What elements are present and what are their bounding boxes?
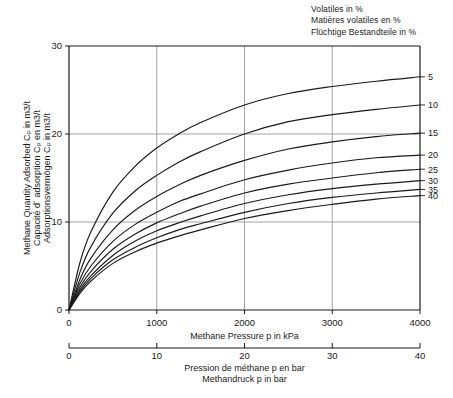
y-tick-label: 30 — [51, 40, 62, 51]
x-tick-label: 0 — [66, 317, 71, 328]
y-axis-ticks: 0102030 — [51, 40, 69, 315]
x-axis-ticks: 01000200030004000 — [66, 310, 430, 328]
curve-label-10: 10 — [428, 100, 438, 110]
secondary-x-axis: 010203040 — [66, 343, 425, 361]
legend-title-en: Volatiles in % — [311, 4, 416, 15]
y-tick-label: 10 — [51, 216, 62, 227]
curve-label-25: 25 — [428, 165, 438, 175]
x-tick-label: 1000 — [146, 317, 167, 328]
x-axis-primary-title: Methane Pressure p in kPa — [190, 331, 299, 341]
y-axis-title-de: Adsorptionsvermögen Cₚ in m3/t — [42, 112, 52, 243]
y-tick-label: 20 — [51, 128, 62, 139]
x-axis-secondary-title-fr: Pression de méthane p en bar — [184, 363, 305, 373]
x-tick-label: 3000 — [322, 317, 343, 328]
curve-label-5: 5 — [428, 72, 433, 82]
legend-title-de: Flüchtige Bestandteile in % — [311, 27, 416, 38]
legend-title-fr: Matières volatiles en % — [311, 15, 416, 26]
curve-label-20: 20 — [428, 150, 438, 160]
secondary-x-tick-label: 20 — [239, 350, 250, 361]
x-axis-secondary-title-de: Methandruck p in bar — [202, 374, 287, 384]
secondary-x-tick-label: 0 — [66, 350, 71, 361]
y-axis-title-en: Methane Quantity Adsorbed Cₚ in m3/t — [22, 100, 32, 255]
y-tick-label: 0 — [57, 304, 62, 315]
adsorption-chart-figure: Volatiles in % Matières volatiles en % F… — [0, 0, 453, 398]
x-tick-label: 4000 — [409, 317, 430, 328]
secondary-x-tick-label: 40 — [415, 350, 426, 361]
chart-svg: 510152025303540 01000200030004000 010203… — [0, 0, 453, 398]
curve-label-group: 510152025303540 — [420, 72, 438, 201]
secondary-x-tick-label: 30 — [327, 350, 338, 361]
curve-label-40: 40 — [428, 191, 438, 201]
gridlines — [69, 46, 420, 310]
y-axis-title-fr: Capacité d´ adsorption Cₚ en m3/t — [32, 109, 42, 246]
curve-label-15: 15 — [428, 128, 438, 138]
legend-title: Volatiles in % Matières volatiles en % F… — [311, 4, 416, 38]
secondary-x-tick-label: 10 — [151, 350, 162, 361]
x-tick-label: 2000 — [234, 317, 255, 328]
